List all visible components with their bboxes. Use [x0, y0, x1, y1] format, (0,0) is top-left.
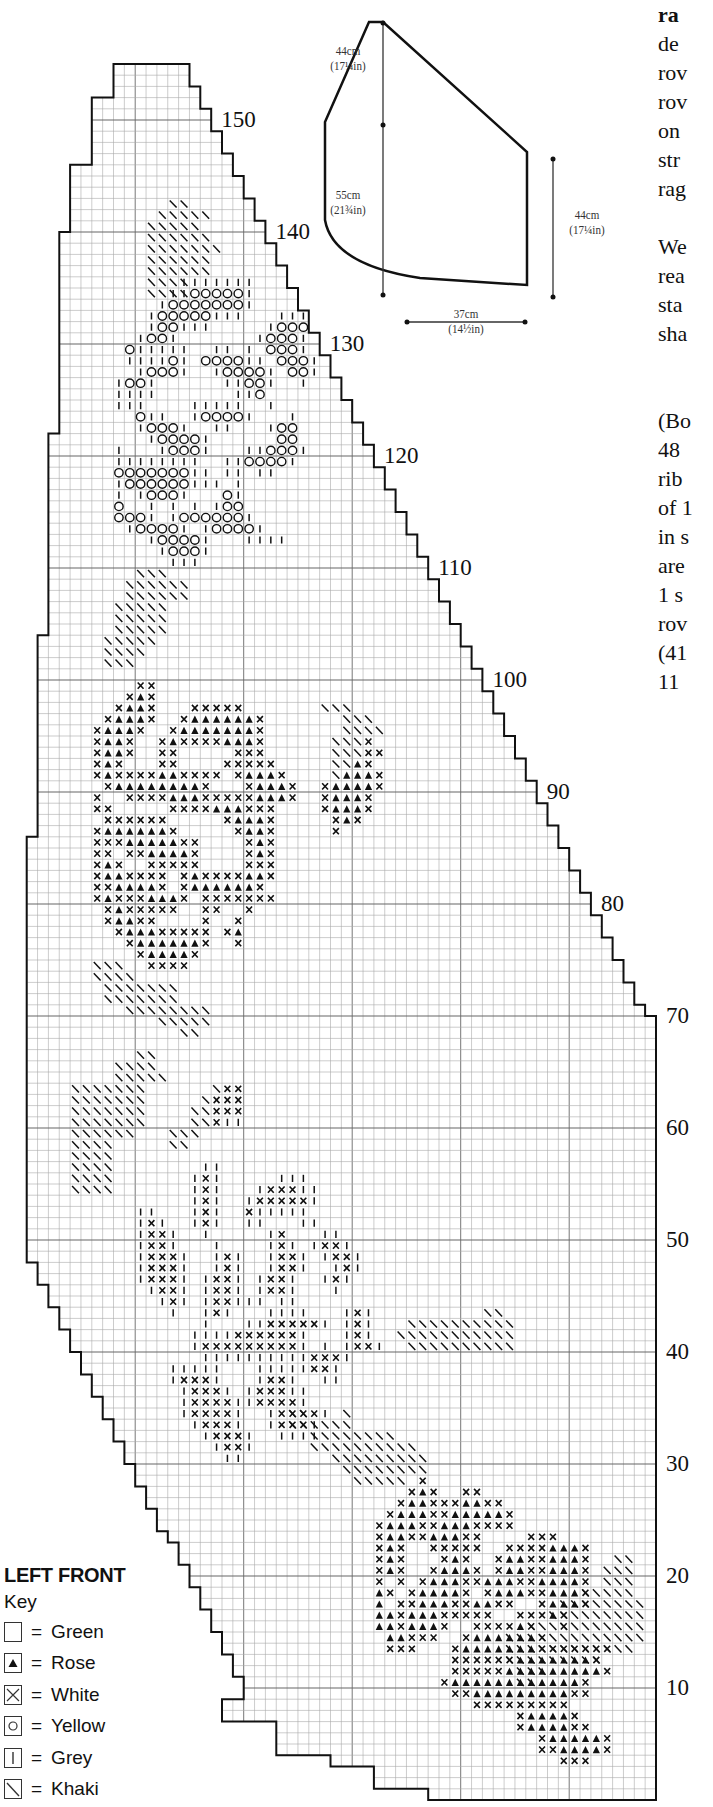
stitch-symbol: [170, 895, 177, 902]
stitch-symbol: [170, 1018, 177, 1025]
stitch-symbol: [387, 1522, 394, 1529]
stitch-symbol: [507, 1623, 513, 1629]
stitch-symbol: [170, 862, 176, 868]
stitch-symbol: [474, 1623, 480, 1629]
lower-left-measurement: 55cm(21¾in): [321, 188, 375, 218]
equals-sign: =: [31, 1715, 42, 1737]
stitch-symbol: [83, 1085, 90, 1092]
stitch-symbol: [387, 1444, 394, 1451]
row-label-40: 40: [666, 1340, 689, 1363]
stitch-symbol: [615, 1556, 622, 1563]
stitch-symbol: [398, 1477, 405, 1484]
stitch-symbol: [181, 212, 188, 219]
stitch-symbol: [115, 502, 123, 510]
stitch-symbol: [191, 223, 198, 230]
stitch-symbol: [365, 1444, 372, 1451]
stitch-symbol: [169, 536, 177, 544]
stitch-symbol: [604, 1634, 611, 1641]
stitch-symbol: [343, 738, 350, 745]
stitch-symbol: [366, 750, 372, 756]
stitch-symbol: [149, 862, 155, 868]
text-line: str: [658, 145, 713, 174]
stitch-symbol: [268, 1276, 274, 1282]
stitch-symbol: [583, 1724, 589, 1730]
stitch-symbol: [181, 581, 188, 588]
stitch-symbol: [376, 1600, 383, 1607]
stitch-symbol: [203, 795, 209, 801]
stitch-symbol: [202, 312, 210, 320]
stitch-symbol: [181, 1007, 188, 1014]
stitch-symbol: [560, 1690, 567, 1697]
stitch-symbol: [159, 615, 166, 622]
stitch-symbol: [409, 1534, 415, 1540]
stitch-symbol: [105, 851, 111, 857]
stitch-symbol: [192, 851, 198, 857]
stitch-symbol: [463, 1556, 469, 1562]
stitch-symbol: [257, 716, 263, 722]
stitch-symbol: [582, 1746, 589, 1753]
stitch-symbol: [137, 716, 144, 723]
stitch-symbol: [268, 1343, 274, 1349]
stitch-symbol: [83, 1130, 90, 1137]
stitch-symbol: [83, 1152, 90, 1159]
stitch-symbol: [279, 1399, 285, 1405]
stitch-symbol: [473, 1511, 480, 1518]
stitch-symbol: [191, 268, 198, 275]
stitch-symbol: [354, 738, 361, 745]
stitch-symbol: [105, 1119, 112, 1126]
stitch-symbol: [311, 1321, 317, 1327]
stitch-symbol: [191, 1029, 198, 1036]
stitch-symbol: [105, 637, 112, 644]
stitch-symbol: [420, 1579, 426, 1585]
stitch-symbol: [170, 1141, 177, 1148]
stitch-symbol: [485, 1523, 491, 1529]
stitch-symbol: [376, 1567, 382, 1573]
stitch-symbol: [170, 592, 177, 599]
stitch-symbol: [180, 940, 187, 947]
stitch-symbol: [159, 290, 166, 297]
stitch-symbol: [170, 256, 177, 263]
text-line: (Bo: [658, 406, 713, 435]
stitch-symbol: [256, 390, 264, 398]
stitch-symbol: [72, 1186, 79, 1193]
stitch-symbol: [235, 750, 241, 756]
text-line: in s: [658, 522, 713, 551]
stitch-symbol: [126, 660, 133, 667]
stitch-symbol: [181, 884, 187, 890]
stitch-symbol: [452, 1601, 458, 1607]
stitch-symbol: [354, 727, 361, 734]
text-line: rag: [658, 174, 713, 203]
stitch-symbol: [387, 1556, 394, 1563]
stitch-symbol: [528, 1690, 535, 1697]
stitch-symbol: [148, 626, 155, 633]
stitch-symbol: [147, 368, 155, 376]
stitch-symbol: [288, 435, 296, 443]
stitch-symbol: [245, 368, 253, 376]
stitch-symbol: [267, 446, 275, 454]
stitch-symbol: [376, 1444, 383, 1451]
stitch-symbol: [496, 1567, 502, 1573]
stitch-symbol: [279, 1287, 285, 1293]
stitch-symbol: [225, 1097, 231, 1103]
stitch-symbol: [256, 772, 263, 779]
stitch-symbol: [202, 301, 210, 309]
equals-sign: =: [31, 1778, 42, 1800]
stitch-symbol: [354, 783, 361, 790]
stitch-symbol: [528, 1567, 534, 1573]
stitch-symbol: [442, 1556, 448, 1562]
stitch-symbol: [148, 245, 155, 252]
stitch-symbol: [354, 716, 361, 723]
stitch-symbol: [549, 1735, 556, 1742]
stitch-symbol: [225, 1299, 231, 1305]
stitch-symbol: [191, 940, 198, 947]
stitch-symbol: [484, 1600, 491, 1607]
stitch-symbol: [311, 1355, 317, 1361]
stitch-symbol: [181, 806, 187, 812]
stitch-symbol: [354, 1444, 361, 1451]
stitch-symbol: [517, 1589, 524, 1596]
stitch-symbol: [571, 1589, 578, 1596]
stitch-symbol: [246, 816, 253, 823]
stitch-symbol: [560, 1589, 567, 1596]
stitch-symbol: [158, 312, 166, 320]
stitch-symbol: [169, 312, 177, 320]
